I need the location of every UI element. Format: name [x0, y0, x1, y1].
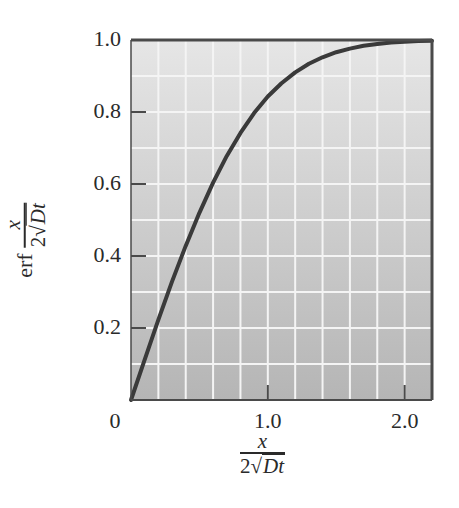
fraction-denominator: 2 √Dt: [240, 454, 285, 477]
x-axis-label: x 2 √Dt: [240, 430, 285, 477]
y-tick-label: 0.4: [61, 244, 121, 266]
y-tick-label: 0.6: [61, 172, 121, 194]
fraction-denominator: 2 √Dt: [25, 202, 48, 247]
y-tick-label: 0.8: [61, 100, 121, 122]
y-tick-label: 0.2: [61, 316, 121, 338]
erf-chart: 1.00.80.60.40.2 01.02.0 erf x 2 √Dt x 2 …: [0, 0, 459, 508]
fraction-numerator: x: [2, 216, 24, 233]
x-tick-label: 0: [85, 410, 145, 432]
x-tick-label: 2.0: [375, 410, 435, 432]
sqrt-symbol: √Dt: [25, 202, 48, 237]
x-tick-label: 1.0: [238, 410, 298, 432]
y-axis-fraction: x 2 √Dt: [2, 202, 49, 247]
y-axis-label: erf x 2 √Dt: [2, 202, 49, 277]
erf-function-label: erf: [12, 253, 38, 277]
fraction-numerator: x: [254, 430, 271, 452]
y-tick-label: 1.0: [61, 28, 121, 50]
sqrt-symbol: √Dt: [251, 454, 286, 477]
